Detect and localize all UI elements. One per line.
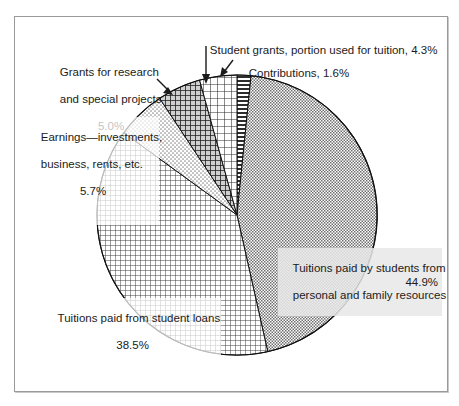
label-earnings-line1: Earnings—investments,	[41, 131, 162, 143]
label-earnings-line2: business, rents, etc.	[41, 158, 143, 170]
label-contributions: Contributions, 1.6%	[236, 53, 349, 94]
label-earnings-percent: 5.7%	[28, 185, 158, 199]
label-earnings: Earnings—investments, business, rents, e…	[27, 117, 159, 225]
label-tuitions-personal-line2: personal and family resources	[293, 289, 446, 301]
label-grants-research-line2: and special projects	[60, 93, 162, 105]
label-contributions-text: Contributions, 1.6%	[249, 67, 349, 79]
label-student-loans-percent: 38.5%	[45, 339, 220, 353]
figure-stage: Student grants, portion used for tuition…	[0, 0, 459, 406]
label-tuitions-personal-line1: Tuitions paid by students from	[293, 262, 446, 274]
label-grants-research-line1: Grants for research	[60, 66, 159, 78]
label-student-loans: Tuitions paid from student loans 38.5%	[44, 298, 221, 379]
label-tuitions-personal-percent: 44.9%	[278, 276, 438, 290]
label-student-loans-line1: Tuitions paid from student loans	[58, 312, 221, 324]
